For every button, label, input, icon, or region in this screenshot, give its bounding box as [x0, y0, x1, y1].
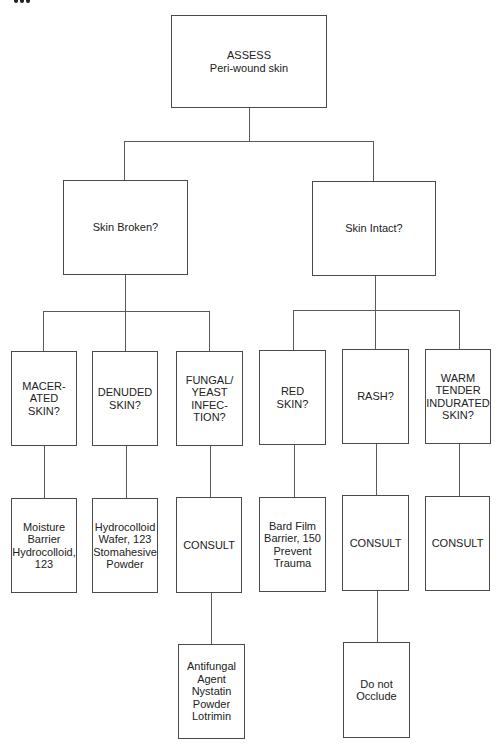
node-moisture-barrier: Moisture Barrier Hydrocolloid, 123 — [11, 498, 77, 593]
node-skin-broken: Skin Broken? — [63, 180, 188, 275]
connector-consult-fungal-down — [211, 592, 212, 644]
connector-intact-horizontal — [293, 310, 460, 311]
flowchart-canvas: ASSESS Peri-wound skin Skin Broken? Skin… — [0, 0, 502, 753]
node-label: Hydrocolloid Wafer, 123 Stomahesive Powd… — [93, 521, 157, 571]
node-denuded: DENUDED SKIN? — [92, 351, 158, 446]
connector-denuded-down — [126, 445, 127, 498]
node-assess: ASSESS Peri-wound skin — [171, 15, 327, 108]
connector-to-skin-broken — [124, 141, 125, 180]
connector-broken-horizontal — [43, 311, 210, 312]
node-label: MACER- ATED SKIN? — [22, 380, 65, 418]
connector-macerated-down — [44, 445, 45, 498]
connector-assess-down — [249, 107, 250, 141]
node-consult-rash: CONSULT — [342, 495, 409, 591]
connector-to-macerated — [43, 311, 44, 351]
node-rash: RASH? — [342, 349, 409, 444]
node-label: ASSESS Peri-wound skin — [210, 49, 288, 74]
node-red: RED SKIN? — [259, 350, 326, 445]
node-warm: WARM TENDER INDURATED SKIN? — [425, 349, 491, 444]
connector-red-down — [294, 444, 295, 497]
connector-fungal-down — [210, 445, 211, 498]
node-label: Skin Broken? — [93, 221, 158, 234]
connector-to-warm — [459, 310, 460, 350]
node-do-not-occlude: Do not Occlude — [343, 642, 410, 738]
node-label: Skin Intact? — [345, 222, 402, 235]
node-skin-intact: Skin Intact? — [312, 181, 436, 276]
node-label: WARM TENDER INDURATED SKIN? — [426, 372, 489, 422]
node-label: RASH? — [357, 390, 394, 403]
node-label: Antifungal Agent Nystatin Powder Lotrimi… — [187, 660, 236, 723]
node-label: Moisture Barrier Hydrocolloid, 123 — [12, 521, 76, 571]
node-consult-fungal: CONSULT — [176, 497, 242, 593]
node-label: CONSULT — [350, 537, 402, 550]
connector-to-fungal — [209, 311, 210, 351]
connector-skin-intact-down — [375, 275, 376, 349]
connector-skin-broken-down — [125, 274, 126, 351]
node-label: Bard Film Barrier, 150 Prevent Trauma — [264, 520, 321, 570]
node-label: Do not Occlude — [356, 678, 396, 703]
node-fungal: FUNGAL/ YEAST INFEC- TION? — [176, 351, 243, 446]
node-hydrocolloid-wafer: Hydrocolloid Wafer, 123 Stomahesive Powd… — [92, 498, 158, 593]
connector-warm-down — [459, 443, 460, 497]
node-label: DENUDED SKIN? — [98, 386, 152, 411]
connector-rash-down — [376, 443, 377, 496]
node-bard-film: Bard Film Barrier, 150 Prevent Trauma — [259, 497, 326, 592]
connector-to-red — [293, 310, 294, 350]
node-antifungal: Antifungal Agent Nystatin Powder Lotrimi… — [178, 644, 245, 739]
cropped-heading-fragment — [14, 0, 32, 3]
node-macerated: MACER- ATED SKIN? — [11, 351, 77, 446]
connector-consult-rash-down — [377, 590, 378, 642]
node-label: RED SKIN? — [277, 385, 309, 410]
connector-to-skin-intact — [373, 141, 374, 181]
connector-level1-horizontal — [124, 141, 374, 142]
node-consult-warm: CONSULT — [425, 496, 490, 591]
node-label: CONSULT — [432, 537, 484, 550]
node-label: FUNGAL/ YEAST INFEC- TION? — [186, 374, 234, 424]
node-label: CONSULT — [183, 539, 235, 552]
